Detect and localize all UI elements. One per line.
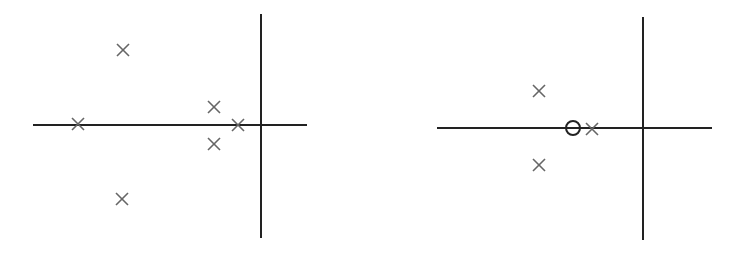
pole-x-icon bbox=[533, 85, 545, 97]
pole-x-icon bbox=[208, 101, 220, 113]
pole-x-icon bbox=[116, 193, 128, 205]
pole-x-icon bbox=[117, 44, 129, 56]
pole-zero-panel-2 bbox=[437, 17, 712, 240]
pole-x-icon bbox=[208, 138, 220, 150]
pole-zero-diagram bbox=[0, 0, 738, 257]
pole-zero-panel-1 bbox=[33, 14, 307, 238]
pole-x-icon bbox=[533, 159, 545, 171]
